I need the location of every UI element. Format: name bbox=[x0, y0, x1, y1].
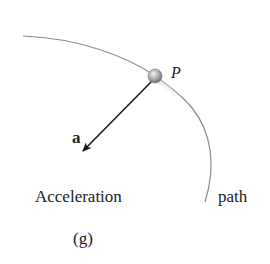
acceleration-vector-arrow bbox=[83, 81, 152, 151]
path-label: path bbox=[218, 187, 248, 206]
caption-acceleration: Acceleration bbox=[35, 187, 122, 206]
particle-ball bbox=[148, 69, 162, 83]
acceleration-diagram: P a Acceleration path (g) bbox=[0, 0, 270, 264]
motion-highlight bbox=[160, 82, 184, 102]
point-label-p: P bbox=[170, 64, 181, 81]
vector-label-a: a bbox=[72, 128, 81, 147]
figure-tag: (g) bbox=[73, 229, 93, 248]
path-curve bbox=[23, 36, 211, 202]
